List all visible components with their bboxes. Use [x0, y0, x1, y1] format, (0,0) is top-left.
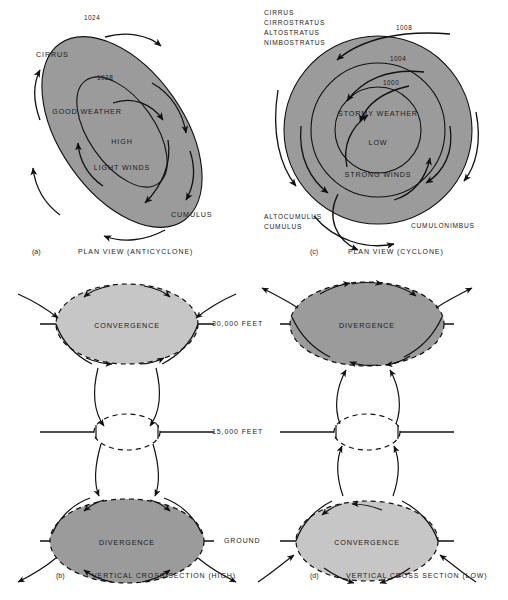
isobar-label-1008: 1008: [396, 24, 412, 31]
altitude-label-15000: 15,000 FEET: [212, 428, 263, 435]
isobar-label-1028: 1028: [97, 74, 113, 81]
panel-c-caption: PLAN VIEW (CYCLONE): [348, 248, 444, 255]
label-light-winds: LIGHT WINDS: [94, 163, 150, 172]
label-stormy-weather: STORMY WEATHER: [338, 109, 418, 118]
label-convergence-upper: CONVERGENCE: [94, 321, 160, 330]
panel-cyclone-plan-view: 1008 1004 1000 CIRRUS CIRROSTRATUS ALTOS…: [254, 0, 508, 270]
cloud-label-cirrus: CIRRUS: [264, 9, 294, 16]
cloud-label-altostratus: ALTOSTRATUS: [264, 29, 320, 36]
cloud-label-altocumulus: ALTOCUMULUS: [264, 213, 322, 220]
middle-ellipse: [94, 414, 160, 450]
label-cirrus: CIRRUS: [36, 50, 69, 59]
isobar-label-1000: 1000: [383, 79, 399, 86]
isobar-1008: [284, 36, 472, 224]
label-good-weather: GOOD WEATHER: [52, 107, 122, 116]
label-divergence-upper: DIVERGENCE: [339, 321, 395, 330]
altitude-label-ground: GROUND: [224, 537, 261, 544]
label-cumulus: CUMULUS: [171, 210, 213, 219]
isobar-label-1024: 1024: [84, 14, 100, 21]
panel-b-letter: (b): [56, 572, 65, 579]
panel-a-letter: (a): [32, 248, 41, 255]
label-high-center: HIGH: [111, 137, 132, 146]
meteorology-figure: 1024 1028 CIRRUS CUMULUS GOOD WEATHER . …: [0, 0, 508, 600]
panel-d-letter: (d): [310, 572, 319, 579]
label-convergence-lower: CONVERGENCE: [334, 538, 400, 547]
altitude-label-30000: 30,000 FEET: [212, 320, 263, 327]
label-strong-winds: STRONG WINDS: [345, 170, 412, 179]
cloud-label-cirrostratus: CIRROSTRATUS: [264, 19, 325, 26]
middle-ellipse: [334, 414, 400, 450]
cloud-label-cumulus: CUMULUS: [264, 223, 302, 230]
cloud-label-cumulonimbus: CUMULONIMBUS: [411, 222, 475, 229]
label-divergence-lower: DIVERGENCE: [99, 538, 155, 547]
panel-d-caption: VERTICAL CROSS SECTION (LOW): [346, 572, 488, 579]
panel-c-letter: (c): [310, 248, 318, 255]
panel-low-cross-section: DIVERGENCE CONVERGENCE (d) VERTICAL CROS…: [254, 272, 508, 600]
label-low-center: LOW: [369, 138, 388, 147]
isobar-label-1004: 1004: [390, 55, 406, 62]
panel-anticyclone-plan-view: 1024 1028 CIRRUS CUMULUS GOOD WEATHER . …: [0, 0, 254, 270]
panel-b-caption: VERTICAL CROSS SECTION (HIGH): [92, 572, 236, 579]
cloud-label-nimbostratus: NIMBOSTRATUS: [264, 39, 326, 46]
panel-a-caption: PLAN VIEW (ANTICYCLONE): [78, 248, 193, 255]
